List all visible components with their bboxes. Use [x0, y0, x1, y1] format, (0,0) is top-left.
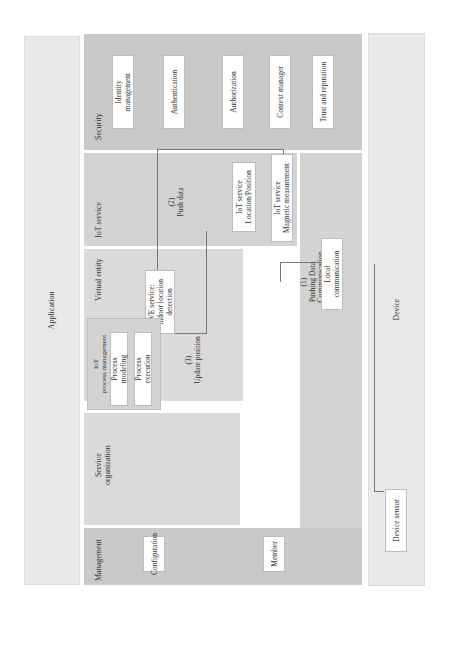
security-label: Security — [94, 113, 103, 140]
communication-panel — [300, 153, 362, 542]
authentication-box: Authentication — [163, 55, 185, 129]
pushing-data-label: (1) Pushing Data — [300, 247, 317, 317]
context-manager-box: Context manager — [269, 55, 291, 129]
update-position-label: (3) Update position — [185, 325, 202, 395]
iot-service-panel: IoT service — [84, 153, 297, 246]
local-communication-box: Local communication — [321, 238, 343, 310]
management-panel: Management — [84, 528, 362, 585]
process-execution-box: Process execution — [134, 332, 152, 406]
iot-service-magnetic-box: IoT service Magnetic measurement — [271, 154, 293, 242]
device-sensor-box: Device sensor — [385, 489, 407, 552]
authorization-box: Authorization — [222, 55, 244, 129]
flow-line-sensor — [374, 264, 375, 492]
push-data-label: (2) Push data — [168, 177, 185, 227]
service-organization-panel: Service organization — [84, 413, 240, 525]
architecture-diagram: Application Device Security Identity man… — [0, 0, 449, 647]
virtual-entity-label: Virtual entity — [94, 259, 103, 301]
process-modeling-box: Process modeling — [110, 332, 128, 406]
flow-line-update-pos-b — [206, 231, 207, 334]
flow-line-local-to-magnetic — [280, 262, 281, 282]
application-layer: Application — [24, 36, 80, 585]
identity-management-box: Identity management — [112, 55, 134, 129]
process-management-label: IoT process management — [92, 319, 108, 409]
member-box: Member — [263, 536, 285, 572]
iot-service-location-box: IoT service Location/Position — [232, 162, 256, 232]
flow-line-push-data-h — [157, 149, 284, 150]
configuration-box: Configuration — [143, 536, 165, 572]
flow-line-push-data-a — [283, 150, 284, 154]
management-label: Management — [94, 539, 103, 581]
application-label: Application — [47, 37, 56, 584]
iot-service-label: IoT service — [94, 202, 103, 238]
trust-reputation-box: Trust and reputation — [312, 55, 334, 129]
service-organization-label: Service organization — [94, 445, 112, 485]
flow-line-push-data-v — [157, 150, 158, 270]
flow-line-sensor-drop — [374, 491, 384, 492]
